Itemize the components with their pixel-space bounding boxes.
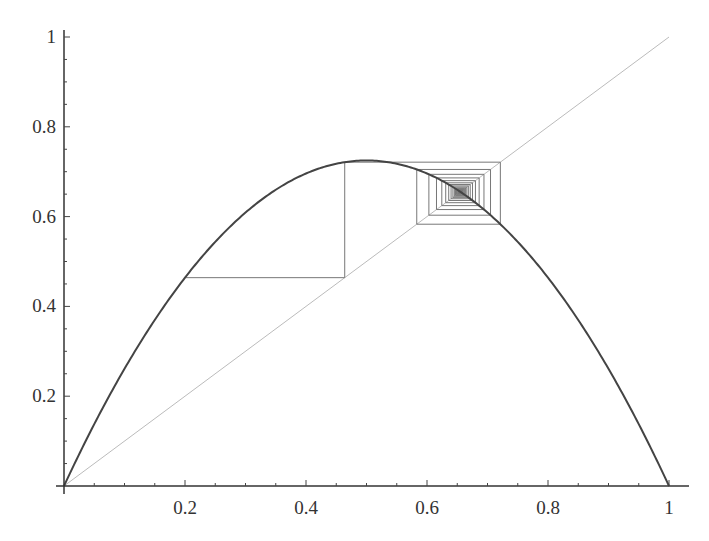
identity-line bbox=[64, 37, 669, 486]
cobweb-path bbox=[185, 162, 500, 278]
y-tick-label: 1 bbox=[47, 26, 57, 47]
cobweb-plot: 0.20.40.60.810.20.40.60.81 bbox=[0, 0, 709, 541]
x-tick-label: 0.4 bbox=[294, 497, 318, 518]
logistic-curve bbox=[64, 160, 669, 486]
x-tick-label: 0.2 bbox=[173, 497, 197, 518]
axes bbox=[56, 30, 689, 494]
plot-area bbox=[64, 37, 669, 486]
y-tick-label: 0.6 bbox=[32, 206, 56, 227]
x-tick-label: 1 bbox=[664, 497, 674, 518]
y-tick-label: 0.2 bbox=[32, 385, 56, 406]
x-tick-label: 0.6 bbox=[415, 497, 439, 518]
y-tick-label: 0.8 bbox=[32, 116, 56, 137]
y-tick-label: 0.4 bbox=[32, 295, 56, 316]
x-tick-label: 0.8 bbox=[536, 497, 560, 518]
